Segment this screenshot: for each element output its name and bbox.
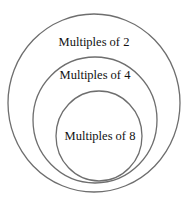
label-multiples-of-2: Multiples of 2 [59,35,130,49]
label-multiples-of-8: Multiples of 8 [65,129,136,143]
nested-sets-diagram: Multiples of 2 Multiples of 4 Multiples … [0,0,188,199]
label-multiples-of-4: Multiples of 4 [60,68,132,82]
